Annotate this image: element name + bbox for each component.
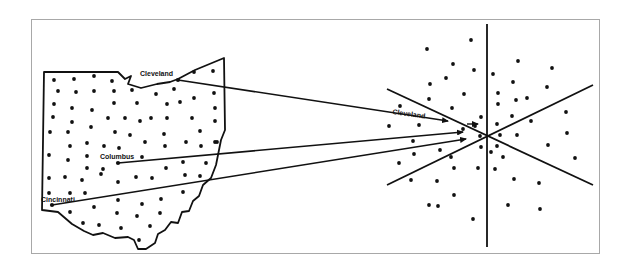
projected-point: [538, 207, 542, 211]
map-point: [68, 144, 72, 148]
projected-point: [449, 155, 453, 159]
map-point: [92, 205, 96, 209]
map-point: [106, 116, 110, 120]
map-point: [148, 224, 152, 228]
map-point: [47, 176, 51, 180]
map-point: [172, 87, 176, 91]
projected-point: [461, 127, 465, 131]
projected-point: [564, 110, 568, 114]
projected-point: [451, 62, 455, 66]
map-point: [165, 102, 169, 106]
map-point: [116, 180, 120, 184]
map-point: [92, 74, 96, 78]
map-point: [102, 144, 106, 148]
map-point: [137, 238, 141, 242]
map-point: [97, 223, 101, 227]
map-point: [213, 119, 217, 123]
map-point: [134, 175, 138, 179]
map-point: [143, 140, 147, 144]
map-point: [89, 125, 93, 129]
projected-point: [398, 104, 402, 108]
projected-point: [452, 193, 456, 197]
cleveland-label: Cleveland: [140, 70, 173, 77]
map-point: [198, 174, 202, 178]
map-point: [138, 119, 142, 123]
map-point: [199, 144, 203, 148]
projected-point: [425, 47, 429, 51]
map-point: [211, 69, 215, 73]
projected-point: [452, 166, 456, 170]
projected-point: [479, 115, 483, 119]
map-point: [140, 202, 144, 206]
map-point: [130, 88, 134, 92]
map-point: [63, 175, 67, 179]
map-point: [85, 154, 89, 158]
map-point: [212, 91, 216, 95]
map-point: [181, 160, 185, 164]
map-point: [47, 191, 51, 195]
map-point: [115, 211, 119, 215]
projected-point: [478, 134, 482, 138]
map-point: [52, 78, 56, 82]
map-point: [81, 221, 85, 225]
projected-point: [450, 106, 454, 110]
projected-point: [411, 139, 415, 143]
map-point: [159, 197, 163, 201]
projected-point: [496, 102, 500, 106]
projected-point: [473, 124, 477, 128]
projected-point: [479, 145, 483, 149]
projected-point: [444, 76, 448, 80]
map-point: [80, 178, 84, 182]
projected-point: [387, 124, 391, 128]
projected-point: [436, 204, 440, 208]
map-point: [178, 100, 182, 104]
projected-point: [496, 91, 500, 95]
map-point: [119, 226, 123, 230]
projected-point: [515, 133, 519, 137]
projected-point: [514, 98, 518, 102]
map-point: [99, 172, 103, 176]
map-point: [215, 140, 219, 144]
map-point: [158, 211, 162, 215]
map-point: [51, 115, 55, 119]
map-point: [162, 132, 166, 136]
map-point: [90, 108, 94, 112]
projected-point: [495, 144, 499, 148]
projected-point: [397, 161, 401, 165]
projected-point: [565, 131, 569, 135]
map-point: [190, 116, 194, 120]
map-point: [128, 133, 132, 137]
projected-point: [501, 155, 505, 159]
projected-point: [489, 150, 493, 154]
projected-point: [495, 122, 499, 126]
projected-point: [546, 143, 550, 147]
map-point: [66, 158, 70, 162]
map-point: [135, 214, 139, 218]
map-point: [83, 191, 87, 195]
map-point: [213, 106, 217, 110]
projected-point: [545, 85, 549, 89]
projection-points: [387, 38, 577, 221]
projected-point: [417, 123, 421, 127]
map-point: [183, 173, 187, 177]
map-point: [181, 190, 185, 194]
projected-point: [462, 92, 466, 96]
projected-point: [506, 203, 510, 207]
map-point: [52, 102, 56, 106]
map-point: [135, 101, 139, 105]
ohio-map: Cleveland Columbus Cincinnati: [41, 58, 225, 249]
ohio-projection-diagram: Cleveland Columbus Cincinnati Cleveland: [0, 0, 626, 270]
projected-point: [469, 38, 473, 42]
map-point: [150, 176, 154, 180]
map-point: [70, 106, 74, 110]
map-point: [123, 116, 127, 120]
map-point: [113, 130, 117, 134]
projected-point: [510, 114, 514, 118]
projected-point: [427, 203, 431, 207]
map-point: [85, 166, 89, 170]
map-point: [66, 130, 70, 134]
map-point: [154, 92, 158, 96]
map-point: [149, 116, 153, 120]
projected-point: [493, 167, 497, 171]
map-point: [70, 120, 74, 124]
